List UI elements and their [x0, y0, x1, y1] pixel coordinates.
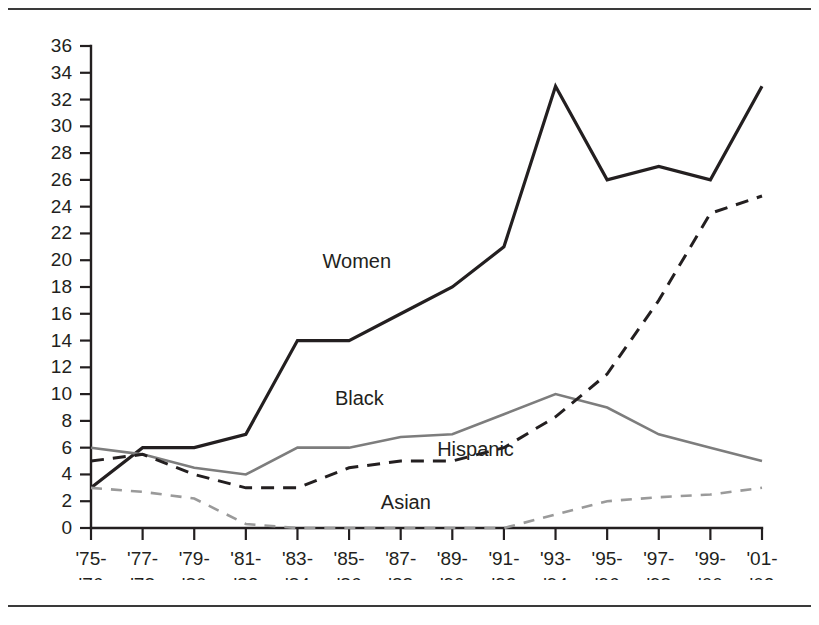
x-tick-label-start-year: '87- — [385, 548, 416, 569]
x-tick-label-start-year: '85- — [334, 548, 365, 569]
x-tick-label-start-year: '89- — [437, 548, 468, 569]
series-label-women: Women — [323, 250, 392, 272]
x-tick-label-end-year: '78 — [130, 574, 155, 580]
x-tick-label-start-year: '95- — [592, 548, 623, 569]
x-tick-label-start-year: '79- — [179, 548, 210, 569]
y-tick-label: 32 — [51, 89, 72, 110]
y-tick-label: 18 — [51, 276, 72, 297]
x-tick-label-start-year: '93- — [540, 548, 571, 569]
bottom-divider-rule — [8, 605, 811, 607]
y-tick-label: 14 — [51, 330, 73, 351]
top-divider-rule — [8, 8, 811, 10]
y-axis: 024681012141618202224262830323436 — [51, 35, 91, 538]
series-line-hispanic — [91, 196, 762, 488]
x-tick-label-end-year: '90 — [440, 574, 465, 580]
series-labels: WomenBlackHispanicAsian — [323, 250, 514, 512]
x-tick-label-end-year: '84 — [285, 574, 310, 580]
x-axis: '75-'76'77-'78'79-'80'81-'82'83-'84'85-'… — [75, 528, 777, 580]
x-tick-label-end-year: '94 — [543, 574, 568, 580]
y-tick-label: 6 — [61, 437, 72, 458]
x-tick-label-start-year: '83- — [282, 548, 313, 569]
line-chart-figure: 024681012141618202224262830323436 '75-'7… — [0, 20, 819, 580]
chart-svg: 024681012141618202224262830323436 '75-'7… — [0, 20, 819, 580]
y-tick-label: 36 — [51, 35, 72, 56]
y-tick-label: 8 — [61, 410, 72, 431]
x-tick-label-end-year: '88 — [388, 574, 413, 580]
y-tick-label: 16 — [51, 303, 72, 324]
series-label-hispanic: Hispanic — [437, 438, 514, 460]
y-tick-label: 34 — [51, 62, 73, 83]
x-tick-label-start-year: '01- — [746, 548, 777, 569]
y-tick-label: 12 — [51, 356, 72, 377]
x-tick-label-start-year: '81- — [230, 548, 261, 569]
y-tick-label: 28 — [51, 142, 72, 163]
y-tick-label: 22 — [51, 222, 72, 243]
x-tick-label-end-year: '86 — [337, 574, 362, 580]
series-label-asian: Asian — [381, 491, 431, 513]
x-tick-label-start-year: '99- — [695, 548, 726, 569]
x-tick-label-end-year: '80 — [182, 574, 207, 580]
x-tick-label-end-year: '96 — [595, 574, 620, 580]
x-tick-label-end-year: '82 — [233, 574, 258, 580]
y-tick-label: 26 — [51, 169, 72, 190]
x-tick-label-end-year: '92 — [492, 574, 517, 580]
x-tick-label-start-year: '77- — [127, 548, 158, 569]
y-tick-label: 30 — [51, 115, 72, 136]
y-tick-label: 2 — [61, 490, 72, 511]
x-tick-label-start-year: '91- — [488, 548, 519, 569]
y-tick-label: 4 — [61, 463, 72, 484]
x-tick-label-start-year: '75- — [75, 548, 106, 569]
y-tick-label: 20 — [51, 249, 72, 270]
x-tick-label-end-year: '00 — [698, 574, 723, 580]
y-tick-label: 24 — [51, 196, 73, 217]
y-tick-label: 0 — [61, 517, 72, 538]
chart-page: 024681012141618202224262830323436 '75-'7… — [0, 0, 819, 625]
series-line-women — [91, 86, 762, 488]
series-label-black: Black — [335, 387, 385, 409]
x-tick-label-end-year: '76 — [79, 574, 104, 580]
series-line-black — [91, 394, 762, 474]
x-tick-label-end-year: '98 — [646, 574, 671, 580]
y-tick-label: 10 — [51, 383, 72, 404]
x-tick-label-start-year: '97- — [643, 548, 674, 569]
series-lines — [91, 86, 762, 528]
x-tick-label-end-year: '02 — [750, 574, 775, 580]
